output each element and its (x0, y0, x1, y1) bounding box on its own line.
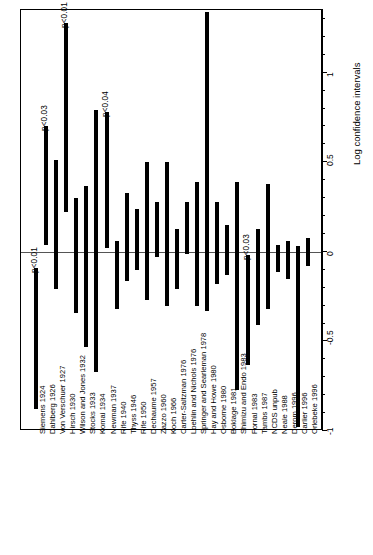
axis-tick-minor (322, 323, 325, 324)
study-label: Hay and Howe 1980 (209, 365, 218, 434)
study-label: Boklage 1981 (229, 388, 238, 434)
axis-tick-label: -0.5 (325, 331, 335, 346)
axis-tick-minor (322, 90, 325, 91)
axis-tick-minor (322, 287, 325, 288)
study-label: Derom 1996 (290, 392, 299, 434)
study-label: Hirsch 1930 (68, 393, 77, 434)
axis-tick-minor (322, 36, 325, 37)
confidence-interval-bar (64, 23, 68, 213)
p-value-annotation: p<0.03 (242, 235, 251, 261)
study-label: Neale 1988 (280, 395, 289, 434)
confidence-interval-bar (286, 241, 290, 279)
axis-tick-minor (322, 305, 325, 306)
axis-tick-label: 0.5 (325, 154, 335, 166)
axis-title: Log confidence intervals (351, 45, 362, 165)
confidence-interval-bar (125, 193, 129, 281)
confidence-interval-bar (256, 229, 260, 326)
axis-tick-minor (322, 18, 325, 19)
study-label: Fornal 1983 (250, 393, 259, 434)
value-axis (322, 9, 323, 430)
axis-tick-minor (322, 394, 325, 395)
study-label: Tambs 1987 (260, 393, 269, 434)
confidence-interval-bar (175, 229, 179, 290)
chart-root: Zygosity by Handedness Log confidence in… (0, 0, 373, 555)
study-label: Zazzo 1960 (159, 394, 168, 434)
confidence-interval-bar (155, 202, 159, 258)
confidence-interval-bar (54, 160, 58, 289)
axis-tick-minor (322, 233, 325, 234)
study-label: Rife 1940 (119, 401, 128, 434)
study-label: Thyss 1946 (129, 395, 138, 434)
study-label: Rife 1950 (139, 401, 148, 434)
study-label: Carter-Saltzman 1976 (179, 360, 188, 434)
study-label: Von Verschuer 1927 (58, 366, 67, 434)
p-value-annotation: p<0.01 (30, 247, 39, 273)
study-label: Siemens 1924 (38, 385, 47, 434)
study-label: Komai 1934 (98, 393, 107, 434)
study-label: Wilson and Jones 1932 (78, 355, 87, 434)
study-label: Koch 1966 (169, 398, 178, 434)
confidence-interval-bar (44, 126, 48, 244)
confidence-interval-bar (225, 225, 229, 275)
axis-tick-label: 1 (325, 72, 335, 77)
study-label: Stocks 1933 (88, 392, 97, 434)
p-value-annotation: p<0.04 (101, 91, 110, 117)
p-value-annotation: p<0.03 (40, 106, 49, 132)
axis-tick-minor (322, 54, 325, 55)
axis-tick-minor (322, 376, 325, 377)
study-label: Osborne 1980 (219, 386, 228, 434)
confidence-interval-bar (185, 202, 189, 254)
axis-tick-minor (322, 215, 325, 216)
confidence-interval-bar (135, 209, 139, 270)
confidence-interval-bar (145, 162, 149, 300)
study-label: Dahlberg 1926 (48, 384, 57, 434)
p-value-annotation: p<0.01 (60, 2, 69, 28)
confidence-interval-bar (205, 12, 209, 311)
axis-tick-minor (322, 143, 325, 144)
axis-tick-minor (322, 125, 325, 126)
axis-tick-minor (322, 197, 325, 198)
confidence-interval-bar (215, 202, 219, 284)
confidence-interval-bar (105, 112, 109, 248)
axis-tick-minor (322, 358, 325, 359)
axis-tick-minor (322, 412, 325, 413)
study-label: Shimizu and Endo 1983 (239, 353, 248, 434)
confidence-interval-bar (195, 182, 199, 306)
study-label: Dechaume 1957 (149, 378, 158, 434)
study-label: Newman 1937 (109, 385, 118, 434)
confidence-interval-bar (306, 238, 310, 267)
confidence-interval-bar (74, 198, 78, 313)
confidence-interval-bar (115, 241, 119, 309)
axis-tick-minor (322, 179, 325, 180)
study-label: NCDS unpub (270, 389, 279, 434)
confidence-interval-bar (165, 162, 169, 305)
axis-tick-minor (322, 108, 325, 109)
study-label: Loehlin and Nichols 1976 (189, 349, 198, 434)
axis-tick-label: 0 (325, 251, 335, 256)
study-label: Orlebeke 1996 (310, 384, 319, 434)
confidence-interval-bar (94, 110, 98, 372)
confidence-interval-bar (276, 245, 280, 272)
confidence-interval-bar (246, 255, 250, 364)
confidence-interval-bar (266, 184, 270, 309)
study-label: Carlier 1996 (300, 393, 309, 434)
axis-tick-minor (322, 269, 325, 270)
confidence-interval-bar (84, 186, 88, 347)
axis-tick-label: -1 (325, 427, 335, 435)
study-label: Springer and Searleman 1978 (199, 333, 208, 434)
